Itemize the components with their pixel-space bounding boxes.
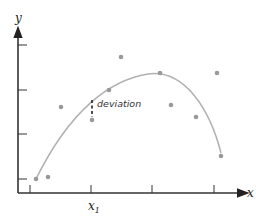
fitted-curve	[36, 74, 221, 179]
data-point	[158, 71, 163, 76]
y-axis-ticks	[18, 45, 27, 179]
y-axis-label: y	[14, 11, 22, 25]
deviation-label: deviation	[97, 98, 141, 109]
data-point	[219, 154, 224, 159]
x-axis-label: x	[247, 186, 254, 200]
data-point	[46, 175, 51, 180]
data-point	[215, 71, 220, 76]
data-point	[107, 88, 112, 93]
x-axis-ticks	[30, 185, 214, 193]
scatter-with-fitted-curve: y x x1 deviation	[0, 0, 256, 217]
data-point	[169, 103, 174, 108]
x1-tick-label: x1	[88, 199, 100, 215]
data-point	[194, 115, 199, 120]
data-point	[90, 118, 95, 123]
data-points	[34, 55, 224, 182]
data-point	[34, 177, 39, 182]
data-point	[119, 55, 124, 60]
data-point	[59, 105, 64, 110]
